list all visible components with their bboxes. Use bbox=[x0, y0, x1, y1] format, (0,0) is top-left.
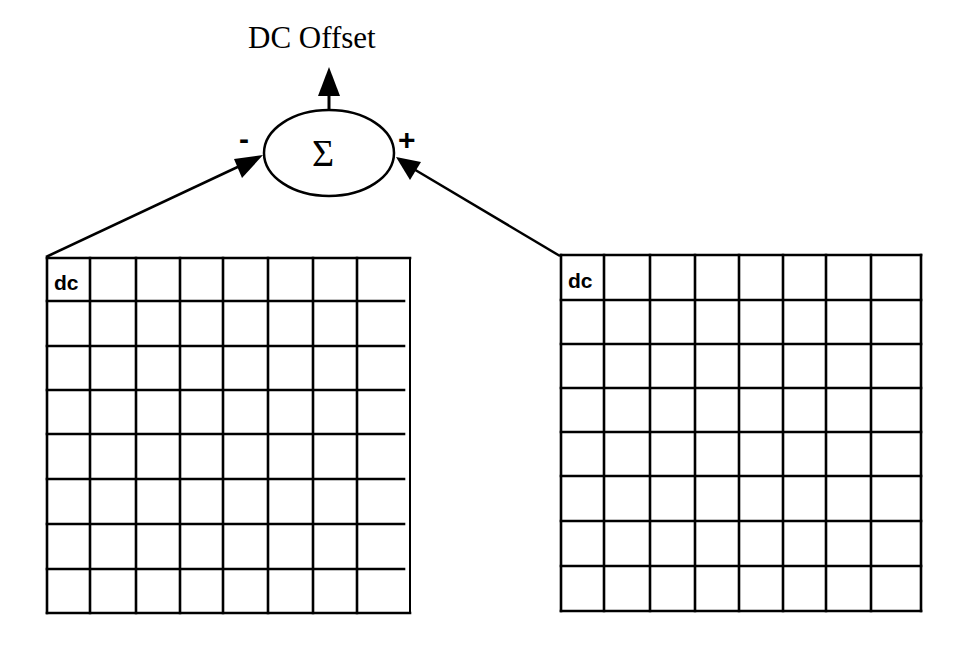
right-coefficient-grid bbox=[561, 255, 921, 611]
sigma-symbol: Σ bbox=[312, 134, 334, 172]
plus-sign: + bbox=[398, 125, 416, 155]
dc-offset-diagram: DC Offset Σ - + dc dc bbox=[0, 0, 966, 648]
minus-sign: - bbox=[239, 124, 249, 154]
left-grid-dc-label: dc bbox=[54, 272, 79, 293]
diagram-svg bbox=[0, 0, 966, 648]
left-coefficient-grid bbox=[47, 258, 410, 613]
right-grid-dc-label: dc bbox=[568, 270, 593, 291]
output-arrow bbox=[318, 67, 340, 110]
right-input-arrow bbox=[396, 157, 560, 256]
left-input-arrow bbox=[46, 155, 263, 257]
output-label: DC Offset bbox=[248, 22, 376, 53]
